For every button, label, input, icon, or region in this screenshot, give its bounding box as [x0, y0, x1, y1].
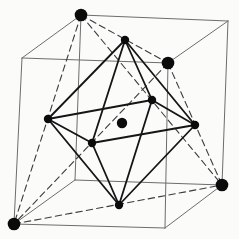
- face-center-atom: [191, 121, 199, 129]
- cube-edge: [222, 21, 228, 185]
- cube-edge: [165, 185, 222, 228]
- octahedron-edge: [125, 40, 195, 125]
- octahedron-edge: [92, 143, 119, 205]
- face-center-atom: [115, 201, 123, 209]
- cube-edge: [22, 15, 81, 58]
- atoms: [8, 9, 229, 231]
- corner-atom: [162, 57, 175, 70]
- corner-atom: [8, 218, 21, 231]
- face-center-atom: [121, 36, 129, 44]
- face-center-atom: [148, 96, 156, 104]
- corner-atom: [75, 9, 88, 22]
- cube-edge: [14, 180, 75, 224]
- face-center-atom: [44, 115, 52, 123]
- octahedron-edge: [152, 100, 195, 125]
- cube-edge: [75, 180, 222, 185]
- cube-edge: [81, 15, 228, 21]
- octahedron-edge: [125, 40, 152, 100]
- interstitial-atom: [117, 118, 127, 128]
- cube-edge: [22, 58, 168, 63]
- octahedron-edge: [119, 100, 152, 205]
- fcc-octahedron-diagram: [0, 0, 239, 239]
- octahedron-edge: [48, 119, 92, 143]
- cube-edge: [168, 21, 228, 63]
- corner-atom: [216, 179, 229, 192]
- face-center-atom: [88, 139, 96, 147]
- cube-edge: [14, 58, 22, 224]
- crystal-structure-figure: [0, 0, 239, 239]
- cube-edge: [14, 224, 165, 228]
